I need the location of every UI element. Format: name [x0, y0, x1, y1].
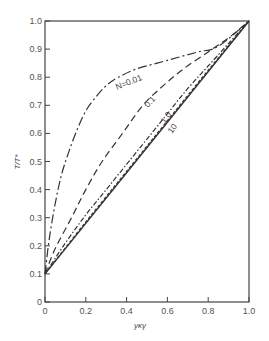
curve-label-n001: N=0.01 — [114, 72, 144, 92]
x-tick-label: 0.2 — [80, 306, 93, 316]
y-tick-label: 0.7 — [29, 100, 42, 110]
x-tick-label: 0.8 — [202, 306, 215, 316]
y-tick-label: 0.1 — [29, 269, 42, 279]
y-axis-title: T/T* — [13, 154, 22, 170]
x-tick-label: 1.0 — [243, 306, 256, 316]
y-tick-label: 0.9 — [29, 44, 42, 54]
y-tick-label: 1.0 — [29, 16, 42, 26]
curve-label-n01: 0.1 — [142, 94, 158, 110]
y-tick-label: 0 — [37, 297, 42, 307]
chart: 00.10.20.30.40.50.60.70.80.91.0 00.20.40… — [0, 0, 269, 341]
curves — [45, 21, 249, 274]
y-tick-label: 0.3 — [29, 213, 42, 223]
x-axis-ticks: 00.20.40.60.81.0 — [42, 297, 255, 316]
y-tick-label: 0.4 — [29, 185, 42, 195]
x-axis-title: yκγ — [133, 321, 147, 330]
y-tick-label: 0.6 — [29, 128, 42, 138]
y-tick-label: 0.5 — [29, 157, 42, 167]
x-tick-label: 0.4 — [120, 306, 133, 316]
plot-frame — [45, 21, 249, 302]
curve-limit-straight-line- — [45, 21, 249, 274]
x-tick-label: 0 — [42, 306, 47, 316]
y-tick-label: 0.2 — [29, 241, 42, 251]
x-tick-label: 0.6 — [161, 306, 174, 316]
y-axis-ticks: 00.10.20.30.40.50.60.70.80.91.0 — [29, 16, 50, 307]
y-tick-label: 0.8 — [29, 72, 42, 82]
